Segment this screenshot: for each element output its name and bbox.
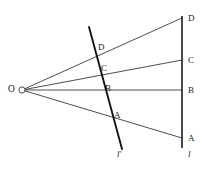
ray-od [22, 18, 182, 90]
figure-canvas [0, 0, 202, 183]
label-oblique-d: D [98, 43, 105, 52]
label-line-l-prime: l′ [117, 150, 121, 159]
label-vertical-c: C [188, 56, 194, 65]
vertex-marker-o [19, 87, 25, 93]
label-line-l: l [188, 150, 191, 159]
geometry-figure: O D C B A D C B A l′ l [0, 0, 202, 183]
label-oblique-c: C [101, 64, 107, 73]
label-point-o: O [8, 85, 15, 94]
ray-oa [22, 90, 182, 138]
label-vertical-b: B [188, 86, 194, 95]
label-vertical-a: A [188, 134, 195, 143]
label-oblique-b: B [105, 84, 111, 93]
label-vertical-d: D [188, 14, 195, 23]
label-oblique-a: A [114, 111, 121, 120]
